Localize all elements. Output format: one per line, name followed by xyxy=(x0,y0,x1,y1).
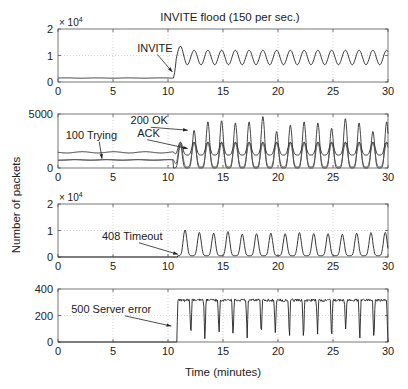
annotation-label: ACK xyxy=(137,127,160,139)
y-tick-label: 2 xyxy=(47,198,53,210)
x-tick-label: 30 xyxy=(382,171,394,183)
y-tick-label: 200 xyxy=(35,310,53,322)
x-tick-label: 25 xyxy=(327,260,339,272)
y-axis-label: Number of packets xyxy=(10,156,22,253)
figure: INVITE flood (150 per sec.) Number of pa… xyxy=(0,0,408,389)
x-tick-label: 15 xyxy=(217,260,229,272)
x-tick-label: 0 xyxy=(55,171,61,183)
y-tick-label: 0 xyxy=(47,76,53,88)
subplot-trying-ok-ack: 05101520253005000100 Trying200 OKACK xyxy=(29,108,395,183)
x-tick-label: 20 xyxy=(272,85,284,97)
annotation-label: 408 Timeout xyxy=(102,230,163,242)
x-tick-label: 15 xyxy=(217,171,229,183)
x-tick-label: 20 xyxy=(272,171,284,183)
y-tick-label: 0 xyxy=(47,251,53,263)
x-tick-label: 10 xyxy=(162,171,174,183)
x-tick-label: 30 xyxy=(382,345,394,357)
y-tick-label: 1 xyxy=(47,50,53,62)
x-tick-label: 5 xyxy=(110,345,116,357)
series-line-200-ok xyxy=(58,117,388,168)
arrowhead-icon xyxy=(100,154,103,159)
x-tick-label: 25 xyxy=(327,345,339,357)
x-tick-label: 0 xyxy=(55,260,61,272)
y-multiplier: × 104 xyxy=(59,191,83,203)
subplot-invite: 051015202530012× 104INVITE xyxy=(47,16,394,97)
x-tick-label: 10 xyxy=(162,345,174,357)
figure-title: INVITE flood (150 per sec.) xyxy=(160,11,300,23)
x-tick-label: 15 xyxy=(217,345,229,357)
x-tick-label: 20 xyxy=(272,345,284,357)
y-tick-label: 5000 xyxy=(29,108,53,120)
annotation-arrow xyxy=(125,316,171,326)
subplot-500-server-error: 0510152025300200400500 Server error xyxy=(35,283,394,357)
annotation-label: 100 Trying xyxy=(66,129,117,141)
x-tick-label: 25 xyxy=(327,85,339,97)
annotation-label: 200 OK xyxy=(131,114,169,126)
x-tick-label: 30 xyxy=(382,260,394,272)
annotation-arrow xyxy=(139,243,178,255)
y-tick-label: 1 xyxy=(47,225,53,237)
arrowhead-icon xyxy=(173,251,178,254)
annotation-label: 500 Server error xyxy=(71,303,151,315)
x-tick-label: 0 xyxy=(55,345,61,357)
y-tick-label: 2 xyxy=(47,23,53,35)
x-tick-label: 10 xyxy=(162,85,174,97)
x-tick-label: 5 xyxy=(110,260,116,272)
x-axis-label: Time (minutes) xyxy=(185,366,261,378)
annotation-label: INVITE xyxy=(137,42,172,54)
x-tick-label: 15 xyxy=(217,85,229,97)
x-tick-label: 30 xyxy=(382,85,394,97)
x-tick-label: 10 xyxy=(162,260,174,272)
y-tick-label: 400 xyxy=(35,283,53,295)
y-tick-label: 0 xyxy=(47,336,53,348)
y-multiplier: × 104 xyxy=(59,16,83,28)
x-tick-label: 5 xyxy=(110,85,116,97)
subplot-408-timeout: 051015202530012× 104408 Timeout xyxy=(47,191,394,272)
x-tick-label: 0 xyxy=(55,85,61,97)
x-tick-label: 5 xyxy=(110,171,116,183)
x-tick-label: 25 xyxy=(327,171,339,183)
y-tick-label: 0 xyxy=(47,162,53,174)
x-tick-label: 20 xyxy=(272,260,284,272)
